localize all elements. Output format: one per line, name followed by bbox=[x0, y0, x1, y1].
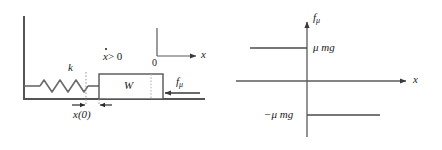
spring-coil bbox=[40, 80, 88, 92]
positive-friction-level-label: μ mg bbox=[313, 42, 335, 53]
block-weight-label: W bbox=[124, 80, 133, 91]
negative-friction-level-label: −μ mg bbox=[264, 109, 293, 120]
figure-svg bbox=[0, 0, 442, 150]
spring bbox=[24, 80, 99, 92]
velocity-symbol: x bbox=[103, 51, 108, 62]
graph-y-axis-subscript: μ bbox=[316, 16, 320, 25]
displacement-reference-lines bbox=[86, 72, 99, 106]
left-coordinate-axes bbox=[157, 28, 196, 56]
figure-container: k W x> 0 x(0) fμ 0 x fμ x μ mg −μ mg bbox=[0, 0, 442, 150]
velocity-condition-text: > 0 bbox=[108, 50, 122, 62]
left-axis-origin-label: 0 bbox=[152, 58, 157, 68]
initial-displacement-label: x(0) bbox=[73, 109, 91, 120]
graph-axes bbox=[236, 22, 406, 137]
spring-constant-label: k bbox=[68, 62, 73, 73]
velocity-condition: x> 0 bbox=[103, 51, 122, 62]
left-axis-x-label: x bbox=[201, 49, 206, 60]
graph-x-axis-label: x bbox=[413, 74, 418, 85]
friction-force-label: fμ bbox=[176, 76, 183, 89]
friction-force-subscript: μ bbox=[179, 80, 183, 89]
graph-y-axis-label: fμ bbox=[313, 12, 320, 25]
